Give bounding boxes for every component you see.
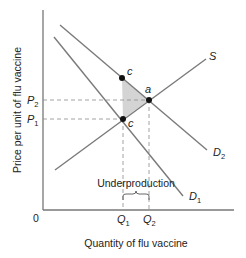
- d2-label: D2: [213, 146, 225, 161]
- point-c-label: c: [128, 117, 134, 129]
- point-a: [146, 97, 152, 103]
- p1-label: P1: [27, 113, 39, 128]
- y-axis-title: Price per unit of flu vaccine: [11, 47, 23, 173]
- point-a-label: a: [145, 83, 151, 95]
- origin-label: 0: [33, 212, 39, 224]
- supply-label: S: [209, 50, 217, 62]
- externality-diagram: c a c S D2 D1 P2 P1 Q1 Q2 0 Underproduct…: [0, 0, 246, 258]
- underproduction-brace: [123, 191, 149, 200]
- q2-label: Q2: [143, 213, 156, 228]
- x-axis-title: Quantity of flu vaccine: [84, 237, 187, 249]
- point-b-label: c: [127, 65, 133, 77]
- point-c: [120, 116, 126, 122]
- demand-curve-d1: [54, 37, 183, 196]
- underproduction-label: Underproduction: [97, 177, 175, 189]
- d1-label: D1: [189, 190, 201, 205]
- p2-label: P2: [27, 94, 39, 109]
- q1-label: Q1: [117, 213, 130, 228]
- point-b: [119, 75, 125, 81]
- demand-curve-d2: [60, 25, 207, 150]
